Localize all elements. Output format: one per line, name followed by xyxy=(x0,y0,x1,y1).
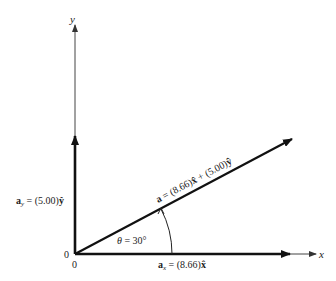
vector-diagram: y x 0 0 ay = (5.00)ŷ ax = (8.66)x̂ θ = 3… xyxy=(0,0,336,281)
angle-arc xyxy=(161,209,172,254)
ax-label: ax = (8.66)x̂ xyxy=(158,259,206,272)
a-vector-label: a = (8.66)x̂ + (5.00)ŷ xyxy=(154,155,234,205)
origin-x-label: 0 xyxy=(72,259,77,270)
y-axis-label: y xyxy=(69,13,75,25)
angle-label: θ = 30° xyxy=(117,235,147,246)
vector-a xyxy=(75,139,292,254)
ay-label: ay = (5.00)ŷ xyxy=(16,195,64,208)
x-axis-label: x xyxy=(318,248,324,260)
origin-y-label: 0 xyxy=(64,249,69,260)
